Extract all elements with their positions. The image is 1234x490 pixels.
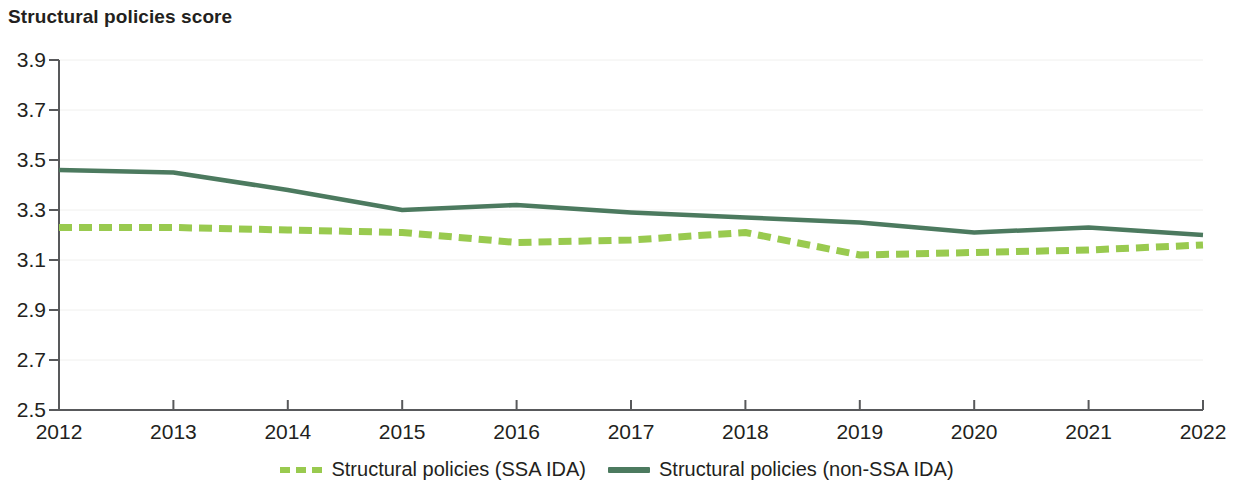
x-axis-tick-label: 2022	[1180, 420, 1227, 444]
x-axis-tick-label: 2017	[608, 420, 655, 444]
y-axis-tick-label: 3.1	[0, 248, 46, 272]
x-axis-tick-label: 2018	[722, 420, 769, 444]
structural-policies-chart: Structural policies score 3.93.73.53.33.…	[0, 0, 1234, 490]
x-axis-tick-label: 2016	[493, 420, 540, 444]
legend-item-label: Structural policies (non-SSA IDA)	[659, 458, 954, 481]
x-axis-tick-label: 2012	[36, 420, 83, 444]
legend-item-non-ssa-ida[interactable]: Structural policies (non-SSA IDA)	[608, 458, 954, 481]
x-axis-tick-label: 2014	[264, 420, 311, 444]
y-axis-tick-label: 2.9	[0, 298, 46, 322]
legend-item-ssa-ida[interactable]: Structural policies (SSA IDA)	[280, 458, 586, 481]
legend-item-label: Structural policies (SSA IDA)	[331, 458, 586, 481]
x-axis-tick-label: 2013	[150, 420, 197, 444]
axes	[59, 60, 1203, 410]
dashed-line-icon	[280, 467, 322, 473]
x-axis-tick-label: 2021	[1065, 420, 1112, 444]
y-axis-tick-label: 2.5	[0, 398, 46, 422]
y-axis-tick-label: 2.7	[0, 348, 46, 372]
series-lines	[59, 170, 1203, 255]
plot-area	[0, 0, 1234, 490]
x-axis-tick-label: 2020	[951, 420, 998, 444]
x-axis-ticks	[59, 400, 1203, 410]
y-axis-ticks	[49, 60, 59, 410]
y-axis-tick-label: 3.5	[0, 148, 46, 172]
x-axis-tick-label: 2015	[379, 420, 426, 444]
gridlines	[59, 60, 1203, 360]
y-axis-tick-label: 3.7	[0, 98, 46, 122]
solid-line-icon	[608, 467, 650, 473]
y-axis-tick-label: 3.3	[0, 198, 46, 222]
y-axis-tick-label: 3.9	[0, 48, 46, 72]
chart-legend: Structural policies (SSA IDA) Structural…	[0, 458, 1234, 481]
x-axis-tick-label: 2019	[836, 420, 883, 444]
